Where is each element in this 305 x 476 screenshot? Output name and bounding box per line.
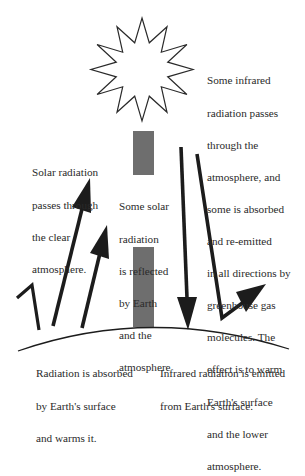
label-line: the clear xyxy=(32,232,98,243)
label-line: is reflected xyxy=(119,266,171,277)
label-line: through the xyxy=(207,140,291,151)
label-line: passes through xyxy=(32,200,98,211)
label-infrared-emitted: Infrared radiation is emitted from Earth… xyxy=(160,347,285,433)
label-line: and warms it. xyxy=(36,433,133,444)
label-solar-passes: Solar radiation passes through the clear… xyxy=(32,146,98,296)
infrared-down-arrow-icon xyxy=(177,147,197,330)
reflected-bar-top xyxy=(133,131,154,175)
label-line: Some infrared xyxy=(207,75,291,86)
label-line: in all directions by xyxy=(207,268,291,279)
label-line: some is absorbed xyxy=(207,204,291,215)
label-line: Infrared radiation is emitted xyxy=(160,368,285,379)
label-line: atmosphere. xyxy=(207,461,291,472)
label-line: and re-emitted xyxy=(207,236,291,247)
label-line: atmosphere. xyxy=(32,264,98,275)
label-line: radiation passes xyxy=(207,108,291,119)
label-line: Some solar xyxy=(119,201,171,212)
label-line: radiation xyxy=(119,234,171,245)
label-line: greenhouse gas xyxy=(207,300,291,311)
label-line: molecules. The xyxy=(207,332,291,343)
label-line: by Earth's surface xyxy=(36,401,133,412)
sun-star-icon xyxy=(91,18,193,121)
label-line: by Earth xyxy=(119,298,171,309)
label-line: Solar radiation xyxy=(32,167,98,178)
label-line: from Earth's surface. xyxy=(160,401,285,412)
label-line: atmosphere, and xyxy=(207,172,291,183)
label-line: and the xyxy=(119,330,171,341)
label-line: Radiation is absorbed xyxy=(36,368,133,379)
label-absorbed: Radiation is absorbed by Earth's surface… xyxy=(36,347,133,465)
